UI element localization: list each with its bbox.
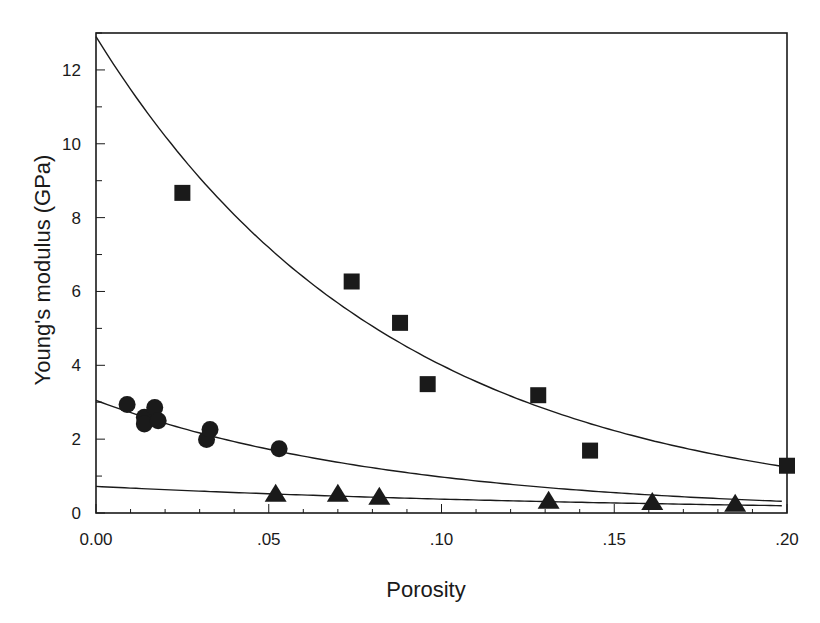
x-tick-label: .10 <box>430 530 454 549</box>
y-axis-title: Young's modulus (GPa) <box>30 155 55 386</box>
square-marker <box>392 315 408 331</box>
triangle-marker <box>265 484 287 502</box>
y-tick-label: 12 <box>62 61 81 80</box>
square-marker <box>344 273 360 289</box>
x-tick-label: .05 <box>257 530 281 549</box>
square-marker <box>174 185 190 201</box>
x-axis-title: Porosity <box>386 577 465 602</box>
triangle-marker <box>368 487 390 505</box>
data-markers <box>119 185 795 512</box>
y-tick-label: 4 <box>72 356 81 375</box>
square-marker <box>582 443 598 459</box>
fit-curve-circles <box>96 400 782 501</box>
y-axis: 024681012 <box>62 33 105 523</box>
circle-marker <box>119 396 136 413</box>
x-tick-label: .20 <box>775 530 799 549</box>
y-tick-label: 2 <box>72 430 81 449</box>
porosity-modulus-chart: 0.00.05.10.15.20 024681012 Porosity Youn… <box>0 0 820 623</box>
y-tick-label: 8 <box>72 209 81 228</box>
square-marker <box>530 387 546 403</box>
square-marker <box>420 376 436 392</box>
circle-marker <box>271 440 288 457</box>
x-tick-label: 0.00 <box>79 530 112 549</box>
fit-curve-squares <box>96 37 787 467</box>
x-tick-label: .15 <box>602 530 626 549</box>
x-axis: 0.00.05.10.15.20 <box>79 504 798 549</box>
triangle-marker <box>538 491 560 509</box>
triangle-marker <box>724 494 746 512</box>
y-tick-label: 6 <box>72 282 81 301</box>
circle-marker <box>202 421 219 438</box>
y-tick-label: 10 <box>62 135 81 154</box>
circle-marker <box>150 412 167 429</box>
triangle-marker <box>327 484 349 502</box>
y-tick-label: 0 <box>72 504 81 523</box>
square-marker <box>779 458 795 474</box>
